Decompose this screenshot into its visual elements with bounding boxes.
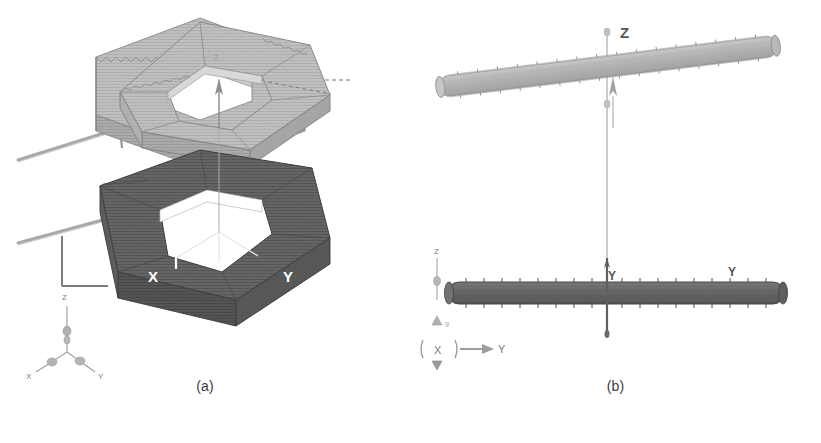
panel-a-corner-triad: Z X Y [26, 293, 104, 380]
figure-panel-a: Z [0, 0, 410, 443]
panel-a-graphic: Z [0, 0, 410, 380]
panel-b-caption: (b) [410, 378, 821, 394]
figure-panel-b: Z Y [410, 0, 821, 443]
panel-a-z-axis-tip-label: Z [214, 54, 219, 61]
panel-a-y-label: Y [283, 268, 293, 285]
panel-b-lower-bar-body [448, 282, 784, 304]
panel-b-graphic: Z Y [410, 0, 821, 380]
panel-b-corner-triad: Z 9 X Y [421, 247, 506, 370]
panel-a-x-label: X [148, 268, 158, 285]
panel-b-upper-bar [434, 32, 782, 101]
panel-b-upper-bar-body [438, 35, 778, 97]
panel-a-triad-z-label: Z [62, 293, 67, 302]
panel-b-z-label: Z [620, 24, 629, 41]
figure-root: Z [0, 0, 821, 443]
panel-b-triad-x-label: X [434, 344, 442, 356]
panel-a-caption: (a) [0, 378, 410, 394]
panel-b-triad-y-label: Y [498, 343, 506, 355]
panel-b-y-label-center: Y [608, 269, 616, 283]
panel-b-y-label-right: Y [728, 265, 736, 279]
lower-hexagonal-ring [100, 150, 330, 326]
panel-b-triad-z-label: Z [434, 247, 439, 256]
panel-b-triad-up-marker: 9 [445, 321, 449, 328]
